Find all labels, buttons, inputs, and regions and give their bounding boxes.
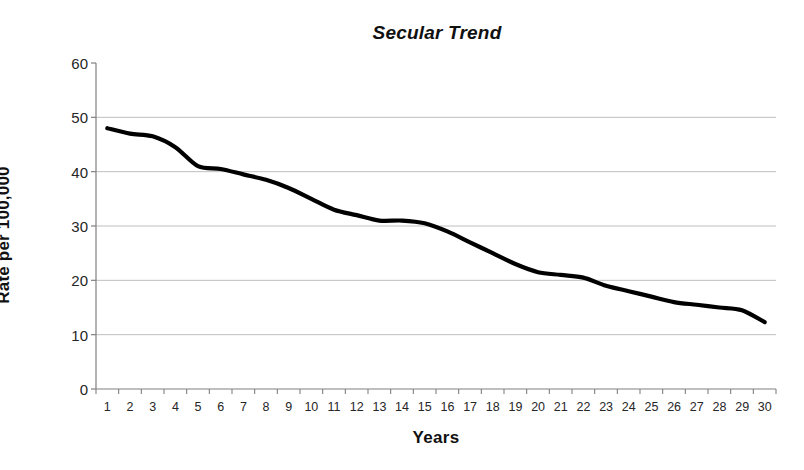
x-axis-tick-label: 6 [209,398,232,420]
y-axis-tick-label: 30 [32,218,88,235]
x-axis-tick-label: 13 [368,398,391,420]
y-axis-tick-label: 60 [32,55,88,72]
x-axis-tick-label: 12 [345,398,368,420]
x-axis-tick-label: 14 [391,398,414,420]
line-chart-svg [96,63,776,389]
gridlines [96,63,776,335]
x-axis-tick-label: 27 [685,398,708,420]
x-axis-tick-label: 17 [459,398,482,420]
y-axis-tick-label: 0 [32,381,88,398]
x-axis-tick-label: 1 [96,398,119,420]
x-axis-tick-label: 4 [164,398,187,420]
x-axis-tick-label: 22 [572,398,595,420]
x-axis-tick-label: 8 [255,398,278,420]
x-axis-tick-label: 26 [663,398,686,420]
x-axis-tick-label: 15 [413,398,436,420]
x-axis-tick-label: 20 [527,398,550,420]
x-axis-tick-label: 29 [731,398,754,420]
x-axis-tick-labels: 1234567891011121314151617181920212223242… [96,398,776,420]
x-axis-tick-label: 2 [119,398,142,420]
x-axis-tick-label: 5 [187,398,210,420]
x-axis-tick-label: 19 [504,398,527,420]
x-axis-tick-label: 3 [141,398,164,420]
x-axis-tick-label: 18 [481,398,504,420]
x-axis-ticks [96,389,776,394]
y-axis-tick-label: 40 [32,163,88,180]
x-axis-tick-label: 30 [753,398,776,420]
plot-area [96,63,776,389]
x-axis-tick-label: 23 [595,398,618,420]
x-axis-title: Years [96,428,776,448]
y-axis-tick-labels: 0102030405060 [26,63,88,389]
x-axis-tick-label: 21 [549,398,572,420]
x-axis-tick-label: 7 [232,398,255,420]
y-axis-tick-label: 10 [32,326,88,343]
x-axis-tick-label: 9 [277,398,300,420]
x-axis-tick-label: 24 [617,398,640,420]
chart-title: Secular Trend [0,22,804,44]
y-axis-tick-label: 50 [32,109,88,126]
x-axis-tick-label: 10 [300,398,323,420]
data-series-line [107,128,764,322]
chart-figure: Secular Trend Rate per 100,000 010203040… [0,0,804,470]
x-axis-tick-label: 25 [640,398,663,420]
x-axis-tick-label: 28 [708,398,731,420]
y-axis-tick-label: 20 [32,272,88,289]
x-axis-tick-label: 11 [323,398,346,420]
x-axis-tick-label: 16 [436,398,459,420]
